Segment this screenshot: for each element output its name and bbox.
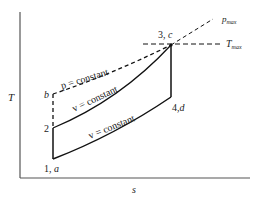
p-max-label: pmax [221,14,237,25]
v-constant-lower-label: v = constant [87,112,137,141]
point-3c-label: 3, c [158,29,173,40]
t-s-diagram: T s 1, a 2 b 3, c 4,d pmax Tmax p = cons… [0,0,254,197]
point-2-label: 2 [44,123,49,134]
p-max-line [171,19,213,45]
t-max-label: Tmax [226,38,242,50]
point-1a-label: 1, a [44,163,59,174]
v-constant-upper-label: v = constant [70,83,119,114]
point-3c-num: 3, [158,29,168,40]
point-4d-num: 4, [172,102,180,113]
point-3c-dot [169,43,172,46]
point-4d-label: 4,d [172,102,186,113]
point-b-label: b [44,89,49,100]
point-3c-letter: c [168,29,173,40]
p-constant-label: p = constant [59,66,109,91]
point-4d-letter: d [180,102,186,113]
x-axis-label: s [132,184,136,195]
point-1a-num: 1, [44,163,54,174]
y-axis-label: T [8,91,15,103]
point-1a-letter: a [54,163,59,174]
